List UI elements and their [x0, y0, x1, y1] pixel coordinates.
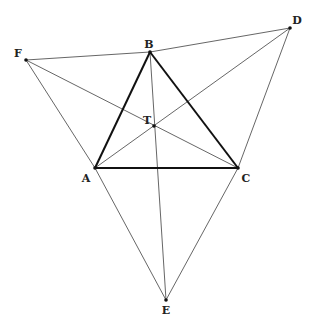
point-f — [24, 58, 28, 62]
segment-bd — [150, 28, 290, 52]
label-d: D — [292, 15, 302, 26]
point-c — [236, 166, 240, 170]
segment-ce — [166, 168, 238, 300]
segment-ae — [95, 168, 166, 300]
point-t — [152, 124, 156, 128]
segment-da — [95, 28, 290, 168]
segment-be — [150, 52, 166, 300]
point-e — [164, 298, 168, 302]
label-c: C — [242, 173, 251, 184]
segment-dc — [238, 28, 290, 168]
geometry-diagram: A B C D E F T — [0, 0, 318, 325]
label-t: T — [143, 115, 151, 126]
point-b — [148, 50, 152, 54]
label-f: F — [14, 48, 22, 59]
label-a: A — [82, 173, 91, 184]
label-e: E — [162, 305, 170, 316]
segment-fa — [26, 60, 95, 168]
segment-fc — [26, 60, 238, 168]
label-b: B — [144, 39, 153, 50]
diagram-svg — [0, 0, 318, 325]
segment-fb — [26, 52, 150, 60]
point-a — [93, 166, 97, 170]
side-ab — [95, 52, 150, 168]
side-bc — [150, 52, 238, 168]
point-d — [288, 26, 292, 30]
